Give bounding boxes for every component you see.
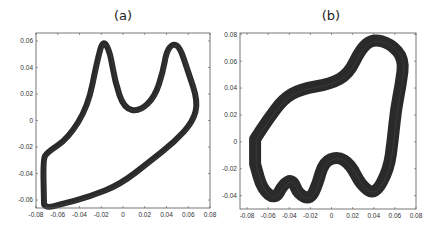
y-tick-label: 0 <box>233 138 237 145</box>
x-tick-label: 0 <box>121 211 125 218</box>
y-tick-label: 0.06 <box>20 37 33 44</box>
x-tick-label: 0.08 <box>204 211 217 218</box>
y-tick-label: 0.06 <box>224 58 237 65</box>
y-tick-label: 0.08 <box>224 31 237 38</box>
x-tick-label: -0.04 <box>282 212 297 219</box>
y-tick-label: 0.04 <box>20 64 33 71</box>
y-tick-label: -0.02 <box>222 165 237 172</box>
x-tick-label: -0.08 <box>240 212 255 219</box>
x-tick-label: -0.06 <box>50 211 65 218</box>
x-tick-label: 0.06 <box>389 212 402 219</box>
y-tick-label: -0.06 <box>18 196 33 203</box>
trajectory-bundle <box>255 40 403 197</box>
x-tick-label: 0.08 <box>410 212 423 219</box>
y-tick-label: 0 <box>29 117 33 124</box>
x-tick-label: 0.02 <box>346 212 359 219</box>
x-tick-label: -0.04 <box>72 211 87 218</box>
x-tick-label: 0.04 <box>160 211 173 218</box>
trajectory-bundle <box>43 43 196 206</box>
axes-a: -0.08-0.06-0.04-0.0200.020.040.060.080.0… <box>18 33 217 218</box>
y-tick-label: -0.02 <box>18 143 33 150</box>
y-tick-label: -0.04 <box>18 170 33 177</box>
x-tick-label: 0.02 <box>138 211 151 218</box>
y-tick-label: 0.02 <box>224 111 237 118</box>
y-tick-label: 0.02 <box>20 90 33 97</box>
figure-canvas: -0.08-0.06-0.04-0.0200.020.040.060.080.0… <box>0 0 435 233</box>
x-tick-label: 0.04 <box>367 212 380 219</box>
x-tick-label: -0.08 <box>29 211 44 218</box>
y-tick-label: 0.04 <box>224 84 237 91</box>
x-tick-label: 0 <box>330 212 334 219</box>
y-tick-label: -0.04 <box>222 192 237 199</box>
x-tick-label: 0.06 <box>182 211 195 218</box>
x-tick-label: -0.06 <box>261 212 276 219</box>
x-tick-label: -0.02 <box>303 212 318 219</box>
x-tick-label: -0.02 <box>94 211 109 218</box>
axes-b: -0.08-0.06-0.04-0.0200.020.040.060.080.0… <box>222 31 423 219</box>
